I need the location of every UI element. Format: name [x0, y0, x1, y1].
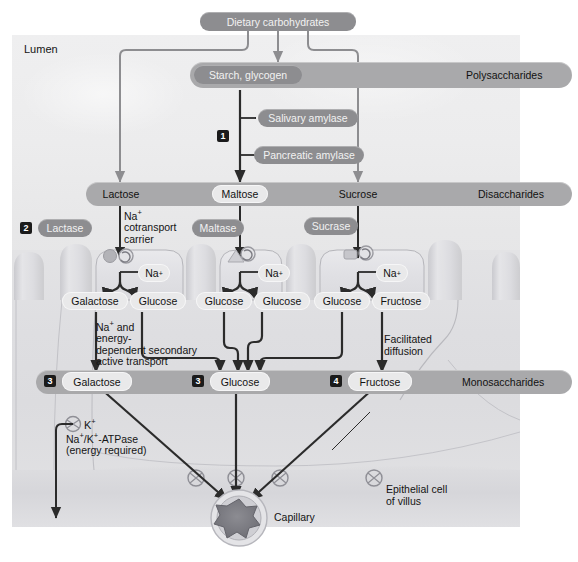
step-badge-2: 2	[20, 222, 32, 234]
lumen-label: Lumen	[24, 44, 58, 56]
na-ion-sucrase: Na+	[376, 264, 408, 282]
maltose-node[interactable]: Maltose	[212, 185, 268, 203]
dietary-carbohydrates-node[interactable]: Dietary carbohydrates	[200, 12, 356, 31]
capillary-label: Capillary	[274, 512, 315, 524]
band-label-monosaccharides: Monosaccharides	[462, 376, 544, 388]
facilitated-diffusion-annotation: Facilitated diffusion	[384, 334, 432, 357]
lactose-node[interactable]: Lactose	[92, 186, 150, 202]
product-glucose-maltase-2[interactable]: Glucose	[254, 292, 310, 310]
band-label-polysaccharides: Polysaccharides	[466, 69, 542, 81]
epithelial-cell-label: Epithelial cell of villus	[386, 484, 447, 507]
secondary-active-transport-annotation: Na+ and energy- dependent secondary acti…	[96, 318, 197, 368]
na-cotransport-annotation: Na+ cotransport carrier	[124, 207, 177, 245]
lactase-pill[interactable]: Lactase	[38, 219, 92, 237]
step-badge-1: 1	[217, 130, 229, 142]
product-fructose-sucrase[interactable]: Fructose	[372, 292, 430, 310]
starch-glycogen-node[interactable]: Starch, glycogen	[194, 65, 302, 84]
product-glucose-maltase-1[interactable]: Glucose	[196, 292, 252, 310]
step-badge-4-fructose: 4	[330, 375, 342, 387]
sucrase-pill[interactable]: Sucrase	[304, 217, 358, 235]
sucrose-node[interactable]: Sucrose	[330, 186, 386, 202]
potassium-ion-label: K+	[84, 416, 96, 431]
capillary-vessel	[211, 490, 267, 546]
na-ion-maltase: Na+	[258, 264, 290, 282]
product-galactose-lactase[interactable]: Galactose	[62, 292, 128, 310]
salivary-amylase-pill[interactable]: Salivary amylase	[258, 109, 358, 127]
monosaccharide-fructose[interactable]: Fructose	[348, 372, 412, 391]
step-badge-3-glucose: 3	[192, 375, 204, 387]
monosaccharide-glucose[interactable]: Glucose	[210, 372, 270, 391]
product-glucose-lactase[interactable]: Glucose	[130, 292, 186, 310]
step-badge-3-galactose: 3	[44, 375, 56, 387]
monosaccharide-galactose[interactable]: Galactose	[62, 372, 132, 391]
atpase-annotation: Na+/K+-ATPase (energy required)	[66, 430, 147, 457]
epithelial-leader-line	[332, 412, 370, 450]
pancreatic-amylase-pill[interactable]: Pancreatic amylase	[254, 146, 364, 164]
flow-line-starch-maltose	[240, 90, 256, 182]
maltase-pill[interactable]: Maltase	[192, 219, 244, 237]
na-ion-lactase: Na+	[138, 264, 170, 282]
band-label-disaccharides: Disaccharides	[478, 188, 544, 200]
diagram-canvas: Polysaccharides Disaccharides Monosaccha…	[0, 0, 578, 562]
product-glucose-sucrase[interactable]: Glucose	[314, 292, 370, 310]
